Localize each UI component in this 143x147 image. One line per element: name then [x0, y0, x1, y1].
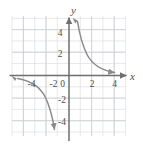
y-tick-label-4: 4 [58, 28, 63, 38]
x-tick-label--4: -4 [28, 79, 36, 89]
y-axis-label: y [70, 4, 76, 16]
hyperbola-graph-svg: -4 -2 0 2 4 4 2 -2 -4 x y [0, 0, 143, 147]
x-tick-label--2: -2 [50, 79, 58, 89]
y-tick-label-2: 2 [58, 49, 63, 59]
x-tick-label-2: 2 [90, 79, 95, 89]
x-axis-label: x [129, 70, 135, 82]
y-tick-label--4: -4 [58, 117, 66, 127]
graph-figure: -4 -2 0 2 4 4 2 -2 -4 x y [0, 0, 143, 147]
x-tick-label-4: 4 [112, 79, 117, 89]
origin-label: 0 [60, 79, 65, 89]
figure-background [0, 0, 143, 147]
y-tick-label--2: -2 [58, 95, 66, 105]
